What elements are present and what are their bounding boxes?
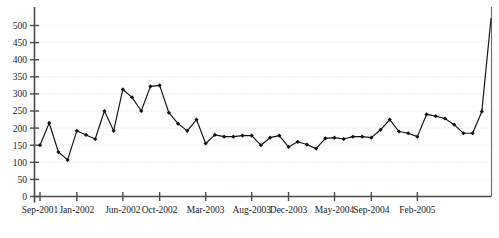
- x-tick-label-Oct-2002: Oct-2002: [142, 205, 178, 215]
- data-point-33: [342, 137, 346, 141]
- y-tick-label-200: 200: [13, 124, 28, 134]
- data-point-35: [360, 135, 364, 139]
- data-point-0: [38, 143, 42, 147]
- data-point-12: [148, 84, 152, 88]
- data-point-42: [424, 112, 428, 116]
- x-tick-label-Aug-2003: Aug-2003: [232, 205, 271, 215]
- x-tick-label-Jan-2002: Jan-2002: [59, 205, 94, 215]
- data-point-29: [305, 142, 309, 146]
- data-point-13: [158, 83, 162, 87]
- y-tick-label-450: 450: [13, 38, 28, 48]
- data-point-8: [112, 129, 116, 133]
- data-point-48: [480, 110, 484, 114]
- data-point-4: [75, 129, 79, 133]
- y-tick-label-50: 50: [18, 175, 28, 185]
- data-point-32: [332, 136, 336, 140]
- data-point-47: [470, 131, 474, 135]
- data-point-34: [351, 135, 355, 139]
- data-point-22: [240, 134, 244, 138]
- data-point-43: [434, 114, 438, 118]
- y-tick-label-500: 500: [13, 21, 28, 31]
- y-ticklabels-group: 050100150200250300350400450500: [13, 21, 28, 202]
- data-point-21: [231, 135, 235, 139]
- data-point-6: [93, 137, 97, 141]
- y-tick-label-150: 150: [13, 141, 28, 151]
- x-ticklabels-group: Sep-2001Jan-2002Jun-2002Oct-2002Mar-2003…: [22, 205, 436, 215]
- x-tick-label-Dec-2003: Dec-2003: [270, 205, 308, 215]
- data-series-line: [40, 19, 491, 160]
- x-tick-label-Jun-2002: Jun-2002: [105, 205, 141, 215]
- y-tick-label-250: 250: [13, 106, 28, 116]
- x-tick-label-Feb-2005: Feb-2005: [399, 205, 436, 215]
- data-point-1: [47, 121, 51, 125]
- y-tick-label-100: 100: [13, 158, 28, 168]
- x-tick-label-Sep-2004: Sep-2004: [353, 205, 390, 215]
- chart-canvas: 050100150200250300350400450500 Sep-2001J…: [0, 0, 499, 238]
- y-tick-label-300: 300: [13, 89, 28, 99]
- line-chart: 050100150200250300350400450500 Sep-2001J…: [0, 0, 499, 238]
- data-point-40: [406, 131, 410, 135]
- x-tick-label-May-2004: May-2004: [315, 205, 355, 215]
- y-tick-label-350: 350: [13, 72, 28, 82]
- y-tick-label-0: 0: [22, 192, 27, 202]
- gridlines-group: [37, 26, 492, 180]
- data-point-20: [222, 135, 226, 139]
- data-series-markers: [38, 83, 484, 162]
- data-point-7: [102, 109, 106, 113]
- data-point-5: [84, 133, 88, 137]
- data-point-41: [415, 135, 419, 139]
- y-tick-label-400: 400: [13, 55, 28, 65]
- x-tick-label-Sep-2001: Sep-2001: [22, 205, 59, 215]
- x-tick-label-Mar-2003: Mar-2003: [187, 205, 225, 215]
